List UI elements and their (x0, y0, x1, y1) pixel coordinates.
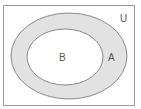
universe-label: U (120, 13, 127, 24)
set-b-label: B (59, 52, 66, 63)
venn-diagram: U B A (0, 0, 141, 109)
set-a-label: A (108, 52, 115, 63)
